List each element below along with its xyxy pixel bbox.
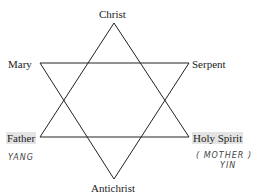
node-holy-spirit: Holy Spirit [192, 132, 243, 144]
node-antichrist: Antichrist [91, 182, 135, 194]
note-mother: ( MOTHER ) [196, 151, 252, 160]
note-yang: YANG [8, 153, 34, 162]
node-christ: Christ [99, 8, 126, 20]
note-yin: YIN [220, 161, 236, 170]
node-father: Father [6, 132, 36, 144]
upward-triangle [40, 23, 189, 137]
node-serpent: Serpent [192, 58, 226, 70]
downward-triangle [40, 63, 189, 179]
node-mary: Mary [8, 58, 32, 70]
